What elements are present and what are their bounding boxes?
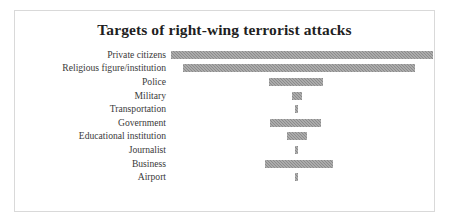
bar	[171, 51, 433, 59]
bar	[295, 146, 298, 154]
bar-track	[15, 75, 434, 89]
bar-row: Police	[15, 75, 434, 89]
bar	[270, 119, 321, 127]
bar-row: Educational institution	[15, 130, 434, 144]
bar-row: Government	[15, 116, 434, 130]
bar-track	[15, 157, 434, 171]
bar-row: Private citizens	[15, 48, 434, 62]
bar-track	[15, 130, 434, 144]
chart-figure: Targets of right-wing terrorist attacks …	[14, 10, 435, 212]
bar-chart-plot-area: Private citizensReligious figure/institu…	[15, 48, 434, 212]
bar-row: Airport	[15, 170, 434, 184]
bar	[295, 105, 298, 113]
bar-row: Religious figure/institution	[15, 62, 434, 76]
bar	[287, 132, 307, 140]
bar-track	[15, 48, 434, 62]
bar	[295, 173, 298, 181]
bar-row: Transportation	[15, 102, 434, 116]
bar	[292, 92, 302, 100]
bar-track	[15, 89, 434, 103]
bar	[265, 160, 333, 168]
bar-track	[15, 62, 434, 76]
bar	[269, 78, 323, 86]
bar	[183, 64, 415, 72]
chart-title: Targets of right-wing terrorist attacks	[15, 21, 434, 39]
bar-row: Business	[15, 157, 434, 171]
bar-track	[15, 143, 434, 157]
bar-track	[15, 170, 434, 184]
bar-row: Journalist	[15, 143, 434, 157]
bar-row: Military	[15, 89, 434, 103]
bar-track	[15, 102, 434, 116]
bar-track	[15, 116, 434, 130]
